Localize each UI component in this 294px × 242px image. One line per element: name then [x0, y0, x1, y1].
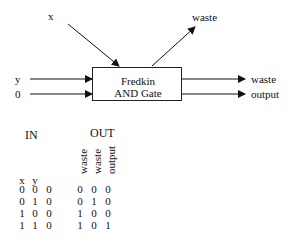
- cell: 1: [76, 220, 84, 231]
- cell: 1: [90, 196, 98, 207]
- output-right-label: output: [251, 89, 279, 100]
- col-header-waste-2: waste: [92, 149, 103, 174]
- cell: 1: [76, 208, 84, 219]
- col-header-output: output: [106, 146, 117, 174]
- waste-right-label: waste: [251, 74, 276, 85]
- cell: 1: [18, 220, 26, 231]
- waste-top-label: waste: [192, 12, 217, 23]
- table-in-header: IN: [25, 129, 38, 141]
- col-header-waste-1: waste: [78, 149, 89, 174]
- cell: 0: [76, 196, 84, 207]
- cell: 0: [104, 208, 112, 219]
- gate-label-line2: AND Gate: [93, 87, 183, 99]
- table-out-header: OUT: [90, 127, 115, 139]
- cell: 1: [31, 196, 39, 207]
- y-input-label: y: [15, 74, 21, 85]
- cell: 0: [90, 220, 98, 231]
- cell: 1: [104, 220, 112, 231]
- cell: 0: [45, 208, 53, 219]
- x-input-arrow: [68, 24, 119, 66]
- cell: 0: [45, 196, 53, 207]
- cell: 0: [31, 208, 39, 219]
- cell: 0: [90, 184, 98, 195]
- cell: 0: [18, 196, 26, 207]
- cell: 0: [45, 220, 53, 231]
- fredkin-gate-box: Fredkin AND Gate: [92, 67, 182, 101]
- cell: 0: [18, 184, 26, 195]
- cell: 0: [90, 208, 98, 219]
- cell: 0: [31, 184, 39, 195]
- waste-top-arrow: [152, 27, 195, 66]
- cell: 1: [31, 220, 39, 231]
- x-input-label: x: [48, 11, 54, 22]
- gate-label-line1: Fredkin: [93, 75, 183, 87]
- cell: 0: [104, 184, 112, 195]
- cell: 1: [18, 208, 26, 219]
- cell: 0: [45, 184, 53, 195]
- cell: 0: [104, 196, 112, 207]
- zero-input-label: 0: [15, 89, 21, 100]
- cell: 0: [76, 184, 84, 195]
